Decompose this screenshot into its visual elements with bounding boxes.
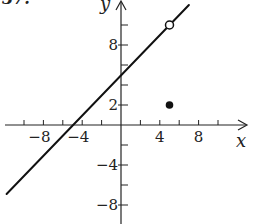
x-axis: −8−448 (5, 120, 247, 146)
x-tick-label: 8 (194, 128, 204, 146)
x-tick-label: −8 (28, 128, 50, 146)
x-tick-label: 4 (155, 128, 165, 146)
y-tick-label: −8 (96, 196, 118, 214)
y-tick-label: 8 (108, 36, 118, 54)
piecewise-function-graph: 37. −8−448 82−4−8 x y (0, 0, 256, 224)
filled-dot-marker (166, 101, 174, 109)
y-tick-label: 2 (108, 96, 118, 114)
y-axis: 82−4−8 (96, 1, 128, 224)
points-layer (166, 21, 174, 109)
x-axis-label: x (236, 130, 246, 151)
x-tick-label: −4 (67, 128, 89, 146)
problem-number-partial: 37. (2, 0, 30, 8)
y-axis-label: y (99, 0, 111, 14)
y-tick-label: −4 (96, 156, 118, 174)
open-circle-marker (166, 21, 174, 29)
